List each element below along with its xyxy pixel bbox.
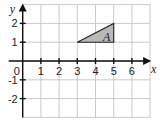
x-tick-label: 6 — [129, 65, 135, 77]
x-tick-label: 3 — [74, 65, 80, 77]
x-tick-label: 1 — [38, 65, 44, 77]
tick-labels: 012345621-1-2xy — [8, 2, 157, 105]
x-axis-label: x — [150, 62, 157, 76]
y-tick-label: -1 — [8, 74, 18, 86]
shape-label: A — [102, 30, 111, 44]
x-tick-label: 5 — [111, 65, 117, 77]
y-axis-label: y — [9, 2, 16, 16]
y-tick-label: -2 — [8, 93, 18, 105]
axes — [9, 4, 151, 118]
y-tick-label: 2 — [12, 17, 18, 29]
coordinate-grid-diagram: A 012345621-1-2xy — [0, 0, 160, 126]
y-tick-label: 1 — [12, 36, 18, 48]
x-tick-label: 4 — [92, 65, 98, 77]
x-tick-label: 2 — [56, 65, 62, 77]
